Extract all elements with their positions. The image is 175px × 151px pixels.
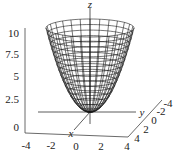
z-tick: 7.5 [5,48,19,60]
z-tick: 2.5 [5,93,19,105]
axes-frame [25,28,162,137]
x-tick: 4 [124,140,130,151]
paraboloid-surface [46,19,134,112]
x-tick: -4 [21,139,31,151]
y-tick: -4 [163,97,173,109]
y-tick-labels: 4 2 0 -2 -4 [134,97,173,144]
y-tick: 4 [134,132,140,144]
y-tick: 2 [143,123,149,135]
x-axis-line [74,112,90,130]
z-tick: 10 [8,27,20,39]
z-axis-label: z [87,0,93,10]
z-tick: 5 [14,70,20,82]
z-tick: 0 [14,121,20,133]
paraboloid-plot: 10 7.5 5 2.5 0 -4 -2 0 2 4 4 2 0 -2 -4 z… [0,0,175,151]
x-tick: 0 [73,140,79,151]
x-axis-label: x [68,127,74,139]
y-axis-label: y [139,106,145,118]
z-tick-labels: 10 7.5 5 2.5 0 [5,27,19,133]
x-tick: 2 [98,140,104,151]
x-tick: -2 [46,139,55,151]
x-tick-axis [25,133,128,137]
x-tick-labels: -4 -2 0 2 4 [21,139,130,151]
